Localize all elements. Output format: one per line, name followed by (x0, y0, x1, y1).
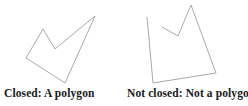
closed-polygon-shape (26, 16, 95, 83)
polygon-diagram: Closed: A polygon Not closed: Not a poly… (0, 0, 248, 106)
caption-not-closed: Not closed: Not a polygon (127, 87, 248, 100)
caption-closed-polygon: Closed: A polygon (4, 87, 95, 100)
open-shape-shape (147, 5, 216, 83)
